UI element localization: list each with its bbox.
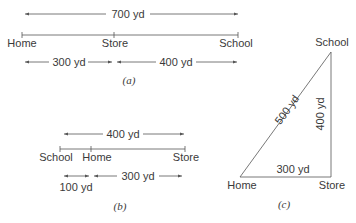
store-label: Store <box>102 37 128 49</box>
segment-1-label: 100 yd <box>59 181 92 193</box>
school-label: School <box>315 36 349 48</box>
hypotenuse-label: 500 yd <box>272 93 301 127</box>
home-label: Home <box>82 151 111 163</box>
store-label: Store <box>173 151 199 163</box>
total-distance-label: 700 yd <box>111 8 144 20</box>
panel-c: School Home Store 300 yd 400 yd 500 yd (… <box>227 36 348 211</box>
distance-diagram: 700 yd Home Store School 300 yd 400 yd (… <box>0 0 356 223</box>
school-label: School <box>219 37 253 49</box>
store-label: Store <box>319 179 345 191</box>
total-distance-label: 400 yd <box>106 128 139 140</box>
school-label: School <box>39 151 73 163</box>
caption-b: (b) <box>114 200 127 213</box>
height-label: 400 yd <box>314 97 326 130</box>
segment-1-label: 300 yd <box>52 56 85 68</box>
segment-2-label: 300 yd <box>121 170 154 182</box>
home-label: Home <box>227 179 256 191</box>
panel-a: 700 yd Home Store School 300 yd 400 yd (… <box>7 8 252 87</box>
base-label: 300 yd <box>276 163 309 175</box>
panel-b: 400 yd School Home Store 100 yd 300 yd (… <box>39 128 199 213</box>
caption-c: (c) <box>278 198 291 211</box>
caption-a: (a) <box>123 74 136 87</box>
segment-2-label: 400 yd <box>159 56 192 68</box>
home-label: Home <box>7 37 36 49</box>
